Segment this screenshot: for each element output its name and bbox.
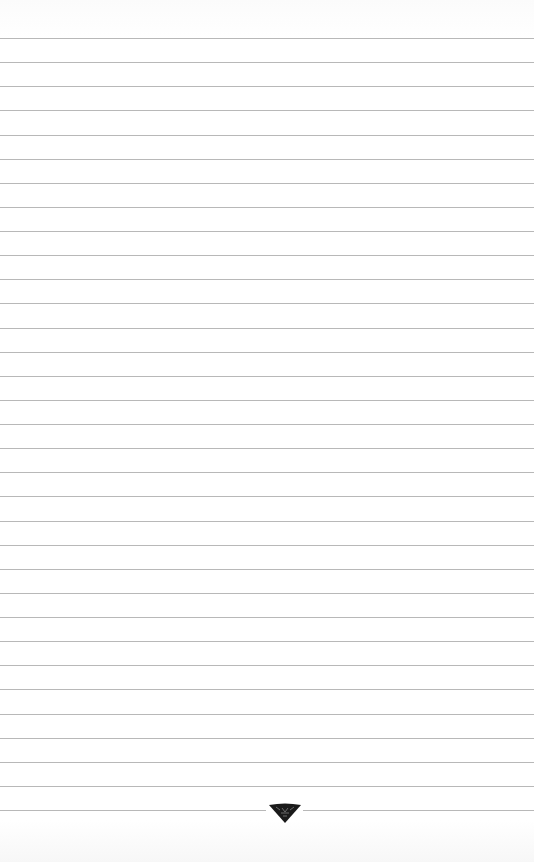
ruled-line — [0, 714, 534, 715]
ruled-line — [0, 352, 534, 353]
ruled-line — [303, 810, 534, 811]
ruled-paper-page — [0, 0, 534, 862]
ruled-line — [0, 593, 534, 594]
ruled-line — [0, 496, 534, 497]
ruled-line — [0, 762, 534, 763]
ruled-line — [0, 641, 534, 642]
ruled-line — [0, 159, 534, 160]
ruled-line — [0, 279, 534, 280]
ruled-line — [0, 62, 534, 63]
ruled-line — [0, 569, 534, 570]
ruled-line — [0, 135, 534, 136]
ruled-line — [0, 810, 266, 811]
ruled-line — [0, 617, 534, 618]
ruled-line — [0, 86, 534, 87]
ruled-line — [0, 424, 534, 425]
ruled-line — [0, 231, 534, 232]
ruled-line — [0, 38, 534, 39]
ruled-line — [0, 689, 534, 690]
ruled-line — [0, 255, 534, 256]
ruled-line — [0, 376, 534, 377]
ruled-line — [0, 472, 534, 473]
ruled-line — [0, 448, 534, 449]
ruled-line — [0, 521, 534, 522]
ruled-line — [0, 183, 534, 184]
chevron-down-icon — [268, 803, 302, 824]
ruled-line — [0, 738, 534, 739]
ruled-line — [0, 207, 534, 208]
ruled-line — [0, 400, 534, 401]
ruled-line — [0, 786, 534, 787]
ruled-line — [0, 665, 534, 666]
ruled-line — [0, 110, 534, 111]
ruled-line — [0, 545, 534, 546]
scroll-down-button[interactable] — [268, 803, 302, 824]
ruled-line — [0, 328, 534, 329]
ruled-line — [0, 303, 534, 304]
